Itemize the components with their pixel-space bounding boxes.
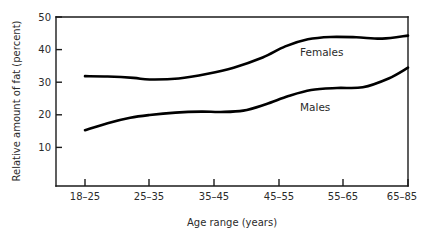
x-tick-label-35-45: 35–45 — [199, 191, 229, 202]
series-curve-females — [85, 36, 408, 80]
chart-figure: 50 40 30 20 10 18–25 25–35 35–45 45–55 5… — [0, 0, 431, 246]
y-tick-label-10: 10 — [38, 142, 51, 153]
fat-vs-age-line-chart: 50 40 30 20 10 18–25 25–35 35–45 45–55 5… — [0, 0, 431, 246]
series-label-females: Females — [300, 46, 343, 58]
y-axis-title: Relative amount of fat (percent) — [11, 20, 22, 181]
y-tick-label-40: 40 — [38, 44, 51, 55]
series-label-males: Males — [300, 101, 330, 113]
x-tick-label-65-85: 65–85 — [387, 191, 417, 202]
y-tick-label-50: 50 — [38, 12, 51, 23]
y-tick-label-30: 30 — [38, 77, 51, 88]
x-tick-label-18-25: 18–25 — [70, 191, 100, 202]
y-axis-ticks — [56, 17, 62, 147]
x-axis-ticks — [85, 179, 408, 186]
x-tick-label-55-65: 55–65 — [328, 191, 358, 202]
x-tick-label-25-35: 25–35 — [134, 191, 164, 202]
x-axis-title: Age range (years) — [187, 217, 277, 228]
x-tick-label-45-55: 45–55 — [264, 191, 294, 202]
y-tick-label-20: 20 — [38, 109, 51, 120]
